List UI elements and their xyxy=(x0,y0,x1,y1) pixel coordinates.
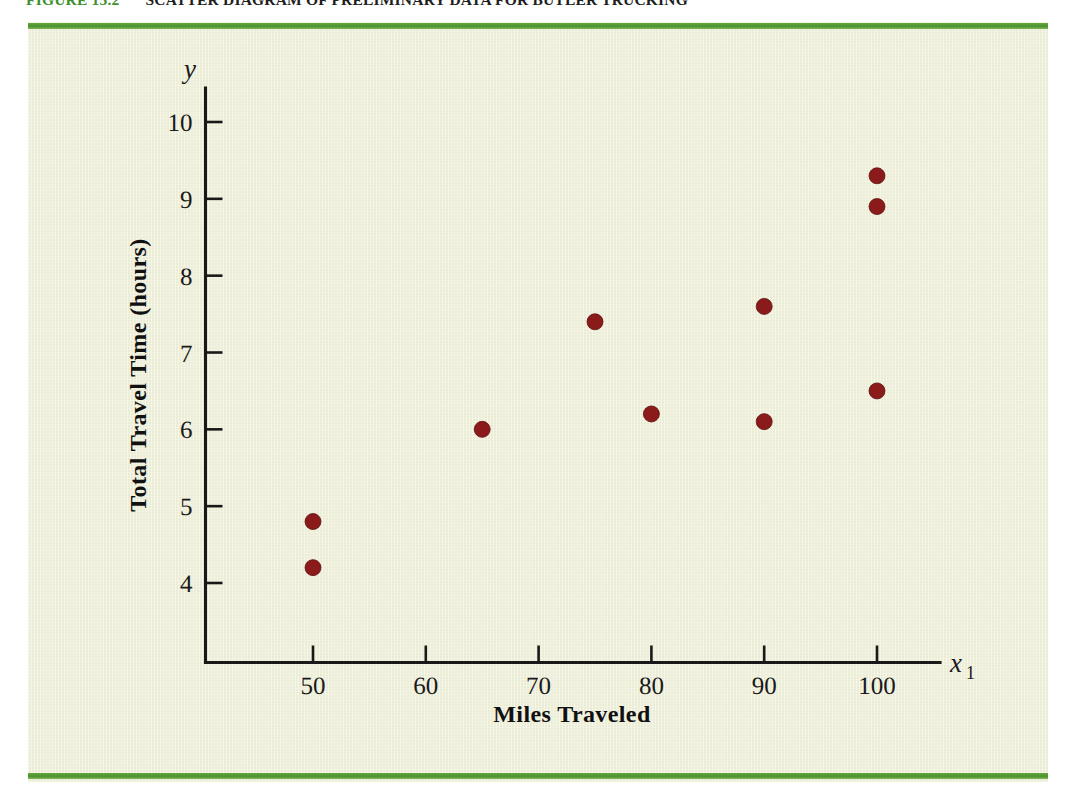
figure-rule-bottom xyxy=(28,773,1048,779)
figure-rule-top xyxy=(28,23,1048,29)
figure-panel xyxy=(28,22,1048,782)
figure-caption: FIGURE 15.2SCATTER DIAGRAM OF PRELIMINAR… xyxy=(0,0,1070,13)
figure-title: SCATTER DIAGRAM OF PRELIMINARY DATA FOR … xyxy=(145,0,688,8)
figure-number-label: FIGURE 15.2 xyxy=(26,0,119,8)
